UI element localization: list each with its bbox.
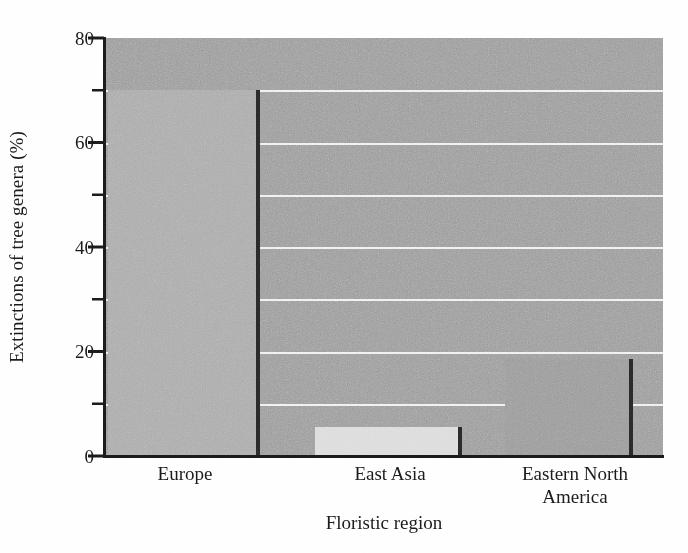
bar-east-asia-texture: [315, 427, 462, 456]
x-tick-label-europe-line1: Europe: [158, 463, 213, 484]
bar-chart-figure: Extinctions of tree genera (%) 80 60 40 …: [0, 0, 688, 553]
plot-area: [105, 38, 663, 456]
x-tick-label-europe: Europe: [105, 462, 265, 485]
bar-eastern-north-america-face: [505, 359, 633, 456]
bar-ena-right-edge: [629, 359, 633, 456]
y-tick-label-60: 60: [48, 133, 94, 152]
bar-east-asia[interactable]: [315, 427, 462, 456]
bar-europe-face: [108, 90, 260, 456]
bar-europe[interactable]: [108, 90, 260, 456]
x-tick-label-ena-line2: America: [490, 485, 660, 508]
bar-east-asia-right-edge: [458, 427, 462, 456]
y-tick-label-0: 0: [48, 447, 94, 466]
y-tick-label-20: 20: [48, 342, 94, 361]
x-tick-label-eastern-north-america: Eastern North America: [490, 462, 660, 508]
x-tick-label-ena-line1: Eastern North: [490, 462, 660, 485]
bar-ena-texture: [505, 359, 633, 456]
bar-europe-right-edge: [256, 90, 260, 456]
x-tick-label-east-asia: East Asia: [300, 462, 480, 485]
bar-east-asia-face: [315, 427, 462, 456]
y-tick-label-80: 80: [48, 29, 94, 48]
y-axis-title: Extinctions of tree genera (%): [0, 38, 34, 456]
x-axis-title: Floristic region: [105, 512, 663, 534]
bar-eastern-north-america[interactable]: [505, 359, 633, 456]
y-axis-tick-labels: 80 60 40 20 0: [42, 0, 94, 553]
y-tick-label-40: 40: [48, 238, 94, 257]
bar-europe-texture: [108, 90, 260, 456]
x-tick-label-east-asia-line1: East Asia: [354, 463, 425, 484]
